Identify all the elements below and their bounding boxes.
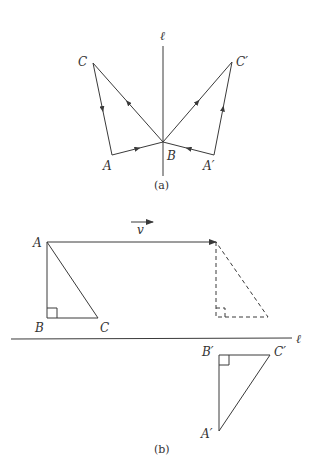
panel-b: v A B C ℓ B′ C′ A′ (b) xyxy=(11,222,301,456)
triangle-a-prime-b-prime-c-prime xyxy=(219,355,270,431)
panel-a: ℓ C C′ A B A′ (a) xyxy=(78,29,248,192)
edge-c-prime-to-a-prime xyxy=(214,62,232,155)
label-b: B xyxy=(166,149,176,163)
label-b-prime: B′ xyxy=(201,345,214,359)
label-c-prime: C′ xyxy=(236,55,248,69)
axis-label-ell-b: ℓ xyxy=(296,332,301,346)
triangle-abc xyxy=(47,242,98,318)
axis-label-ell: ℓ xyxy=(160,29,165,43)
translated-triangle-dashed xyxy=(216,242,268,317)
right-angle-marker-dashed xyxy=(216,308,225,317)
label-b-c: C xyxy=(100,321,109,335)
caption-a: (a) xyxy=(154,179,169,192)
edge-a-to-b xyxy=(112,142,163,155)
right-angle-marker-b-prime xyxy=(219,355,229,365)
edge-b-to-c xyxy=(93,63,163,142)
edge-b-to-c-prime xyxy=(163,62,232,142)
label-b-a: A xyxy=(32,236,42,250)
label-b-b: B xyxy=(34,321,44,335)
edge-c-to-a xyxy=(93,63,112,155)
vector-v-label: v xyxy=(137,223,144,237)
label-a-prime-b: A′ xyxy=(200,427,213,441)
label-c-prime-b: C′ xyxy=(274,345,286,359)
caption-b: (b) xyxy=(154,443,170,456)
geometry-figure: ℓ C C′ A B A′ (a) v A B C ℓ xyxy=(0,0,321,467)
label-c: C xyxy=(78,55,87,69)
label-a: A xyxy=(102,159,112,173)
label-a-prime: A′ xyxy=(202,159,215,173)
reflection-axis-horizontal xyxy=(11,338,292,339)
right-angle-marker-b xyxy=(47,308,57,318)
